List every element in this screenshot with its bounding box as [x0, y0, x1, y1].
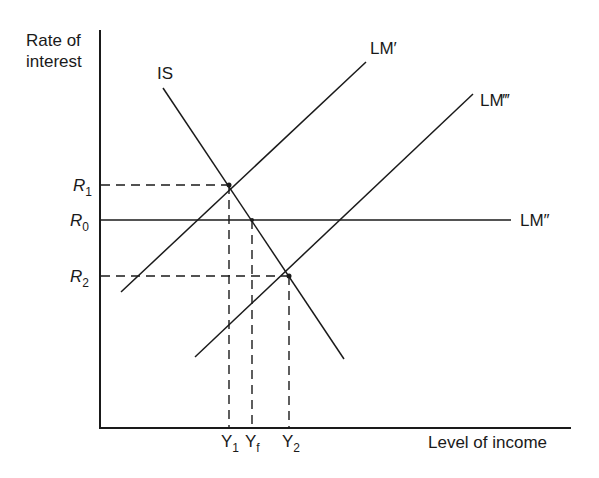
yf-label: Yf: [245, 432, 260, 455]
y1-label: Y1: [221, 432, 239, 455]
r1-label: R1: [73, 176, 92, 199]
is-label: IS: [157, 64, 173, 83]
lm-triple-prime-curve: [195, 94, 473, 357]
dashed-guides: [101, 185, 289, 428]
lm-prime-curve: [121, 62, 366, 292]
y2-label: Y2: [282, 432, 300, 455]
y-axis-label-line2: interest: [26, 52, 82, 71]
is-curve: [163, 88, 344, 359]
lm-triple-prime-label: LM‴: [480, 91, 510, 110]
equilibrium-point-2: [287, 274, 292, 279]
x-axis-label: Level of income: [428, 433, 547, 452]
equilibrium-point-f: [250, 218, 254, 222]
equilibrium-point-1: [227, 183, 232, 188]
lm-double-prime-label: LM″: [520, 211, 550, 230]
y-axis-label-line1: Rate of: [26, 31, 81, 50]
r0-label: R0: [70, 211, 89, 234]
is-lm-diagram: Rate of interest Level of income IS LM′ …: [0, 0, 599, 478]
lm-prime-label: LM′: [370, 39, 397, 58]
r2-label: R2: [70, 267, 89, 290]
